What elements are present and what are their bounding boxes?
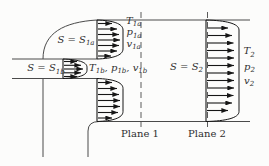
label-plane-2: Plane 2 <box>188 128 226 139</box>
label-v2: v2 <box>244 75 255 89</box>
label-plane-1: Plane 1 <box>121 128 159 139</box>
mixing-duct-diagram: S = S1a S = S1b T1a p1a v1a T1b, p1b, v1… <box>0 0 269 166</box>
label-p2: p2 <box>244 61 255 75</box>
outlet-velocity-profile <box>206 20 239 122</box>
label-row-1b: T1b, p1b, v1b <box>89 62 148 76</box>
side-inlet-velocity-profile <box>63 59 87 79</box>
label-s1b: S = S1b <box>27 62 65 76</box>
label-v1a: v1a <box>127 38 141 52</box>
lower-inlet-corner <box>88 122 99 158</box>
label-s1a: S = S1a <box>57 34 94 48</box>
label-t2: T2 <box>244 45 256 59</box>
label-s2: S = S2 <box>170 61 203 75</box>
lower-inlet-velocity-profile <box>97 79 123 122</box>
upper-inlet-velocity-profile <box>97 20 123 59</box>
